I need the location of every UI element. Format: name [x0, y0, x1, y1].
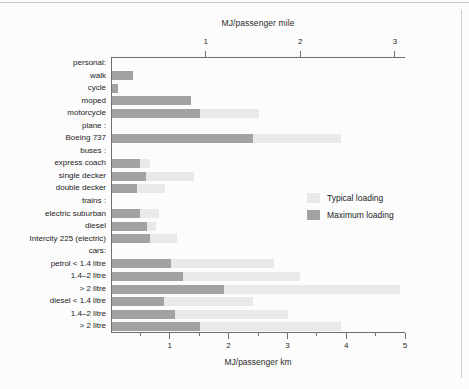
- chart-figure: MJ/passenger mile 123 personal:walkcycle…: [0, 0, 469, 389]
- row-label: trains :: [0, 195, 106, 208]
- legend-label: Typical loading: [327, 190, 383, 207]
- row-label: petrol < 1.4 litre: [0, 258, 106, 271]
- bar-maximum-loading: [112, 134, 253, 143]
- bar-row: Intercity 225 (electric): [0, 233, 469, 246]
- row-label: buses :: [0, 145, 106, 158]
- bottom-axis-tick: [346, 333, 347, 339]
- bottom-axis-tick-label: 3: [285, 341, 289, 350]
- top-axis-tick-label: 3: [393, 37, 397, 46]
- bottom-axis-minor-tick: [258, 333, 259, 336]
- bar-row: walk: [0, 70, 469, 83]
- bar-maximum-loading: [112, 272, 183, 281]
- bar-row: cycle: [0, 82, 469, 95]
- bottom-axis-minor-tick: [375, 333, 376, 336]
- legend-swatch-typical: [307, 193, 320, 203]
- bar-row: diesel: [0, 220, 469, 233]
- row-label: motorcycle: [0, 107, 106, 120]
- bar-maximum-loading: [112, 96, 191, 105]
- row-label: 1.4–2 litre: [0, 308, 106, 321]
- bottom-axis-tick-label: 5: [403, 341, 407, 350]
- row-label: single decker: [0, 170, 106, 183]
- row-label: personal:: [0, 57, 106, 70]
- row-label: walk: [0, 70, 106, 83]
- bottom-axis-tick: [287, 333, 288, 339]
- bar-maximum-loading: [112, 184, 137, 193]
- category-header-row: trains :: [0, 195, 469, 208]
- row-label: > 2 litre: [0, 283, 106, 296]
- bar-maximum-loading: [112, 297, 164, 306]
- bar-row: electric suburban: [0, 208, 469, 221]
- bottom-axis-tick-label: 2: [226, 341, 230, 350]
- legend-label: Maximum loading: [327, 207, 394, 224]
- category-header-row: buses :: [0, 145, 469, 158]
- bar-maximum-loading: [112, 259, 171, 268]
- bar-row: 1.4–2 litre: [0, 308, 469, 321]
- bar-row: > 2 litre: [0, 283, 469, 296]
- category-header-row: personal:: [0, 57, 469, 70]
- bar-maximum-loading: [112, 234, 150, 243]
- bar-row: Boeing 737: [0, 132, 469, 145]
- row-label: electric suburban: [0, 208, 106, 221]
- bar-row: diesel < 1.4 litre: [0, 295, 469, 308]
- row-label: Boeing 737: [0, 132, 106, 145]
- bar-maximum-loading: [112, 222, 147, 231]
- bar-maximum-loading: [112, 71, 133, 80]
- top-axis-title: MJ/passenger mile: [111, 18, 405, 28]
- top-axis-tick-label: 2: [298, 37, 302, 46]
- bar-row: express coach: [0, 157, 469, 170]
- category-header-row: plane :: [0, 120, 469, 133]
- bottom-axis-tick: [169, 333, 170, 339]
- category-header-row: cars:: [0, 245, 469, 258]
- row-label: > 2 litre: [0, 320, 106, 333]
- bar-row: moped: [0, 95, 469, 108]
- row-label: Intercity 225 (electric): [0, 233, 106, 246]
- bar-maximum-loading: [112, 159, 140, 168]
- bottom-axis-title: MJ/passenger km: [111, 357, 405, 367]
- bottom-axis-tick-label: 4: [344, 341, 348, 350]
- bar-row: motorcycle: [0, 107, 469, 120]
- bottom-axis-tick: [405, 333, 406, 339]
- bar-maximum-loading: [112, 172, 146, 181]
- bottom-axis-tick-label: 1: [168, 341, 172, 350]
- bar-maximum-loading: [112, 109, 200, 118]
- bar-maximum-loading: [112, 310, 175, 319]
- top-axis-tick-label: 1: [203, 37, 207, 46]
- bar-row: > 2 litre: [0, 320, 469, 333]
- legend-swatch-maximum: [307, 210, 320, 220]
- row-label: moped: [0, 95, 106, 108]
- bar-row: 1.4–2 litre: [0, 270, 469, 283]
- bottom-axis-minor-tick: [140, 333, 141, 336]
- bottom-axis-tick: [228, 333, 229, 339]
- row-label: express coach: [0, 157, 106, 170]
- page-canvas: MJ/passenger mile 123 personal:walkcycle…: [0, 0, 469, 389]
- row-label: 1.4–2 litre: [0, 270, 106, 283]
- row-label: diesel: [0, 220, 106, 233]
- bar-maximum-loading: [112, 209, 140, 218]
- bar-row: double decker: [0, 182, 469, 195]
- bottom-axis-minor-tick: [199, 333, 200, 336]
- bar-maximum-loading: [112, 322, 200, 331]
- row-label: cycle: [0, 82, 106, 95]
- bar-row: single decker: [0, 170, 469, 183]
- bar-maximum-loading: [112, 285, 224, 294]
- bar-maximum-loading: [112, 84, 118, 93]
- row-label: diesel < 1.4 litre: [0, 295, 106, 308]
- bottom-axis-minor-tick: [316, 333, 317, 336]
- bar-row: petrol < 1.4 litre: [0, 258, 469, 271]
- row-label: double decker: [0, 182, 106, 195]
- row-label: cars:: [0, 245, 106, 258]
- row-label: plane :: [0, 120, 106, 133]
